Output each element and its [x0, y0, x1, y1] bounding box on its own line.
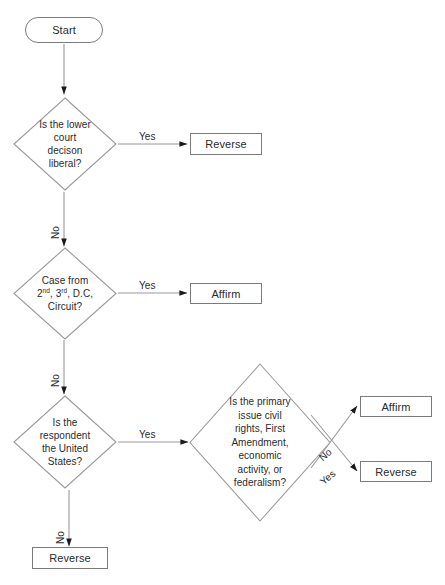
line-1: Is the primary — [229, 396, 290, 407]
line-1: Is the — [53, 417, 78, 428]
line-7: federalism? — [234, 477, 286, 488]
line-5: economic — [238, 450, 281, 461]
node-decision-lower-court-liberal[interactable]: Is the lower court decison liberal? — [13, 97, 117, 191]
line-4: Amendment, — [231, 437, 288, 448]
node-reverse-top[interactable]: Reverse — [190, 133, 262, 155]
line-3: the United — [42, 443, 88, 454]
node-reverse-bottom-label: Reverse — [49, 552, 91, 564]
line-1: Is the lower — [39, 119, 91, 130]
line-2-ordinals: 2nd, 3rd, D.C, — [37, 288, 93, 299]
node-start[interactable]: Start — [25, 17, 103, 43]
node-affirm-right[interactable]: Affirm — [360, 396, 432, 417]
line-6: activity, or — [238, 464, 283, 475]
node-decision-circuit[interactable]: Case from 2nd, 3rd, D.C, Circuit? — [13, 247, 117, 340]
edge-label-liberal-no: No — [50, 226, 61, 239]
node-decision-primary-issue-label: Is the primary issue civil rights, First… — [209, 395, 311, 490]
edge-label-respondent-yes: Yes — [139, 429, 156, 440]
edge-label-circuit-yes: Yes — [139, 280, 156, 291]
node-affirm-right-label: Affirm — [381, 401, 410, 413]
line-2: issue civil — [238, 410, 281, 421]
node-affirm-middle-label: Affirm — [211, 288, 240, 300]
node-decision-respondent-us[interactable]: Is the respondent the United States? — [13, 395, 117, 489]
node-decision-respondent-us-label: Is the respondent the United States? — [24, 416, 105, 468]
line-4: States? — [48, 456, 82, 467]
line-3: rights, First — [235, 423, 285, 434]
line-3: Circuit? — [48, 301, 82, 312]
node-decision-primary-issue[interactable]: Is the primary issue civil rights, First… — [189, 363, 331, 522]
flowchart-canvas: Start Is the lower court decison liberal… — [0, 0, 445, 585]
node-start-label: Start — [52, 24, 76, 36]
node-reverse-right[interactable]: Reverse — [360, 461, 432, 482]
node-decision-circuit-label: Case from 2nd, 3rd, D.C, Circuit? — [24, 274, 105, 313]
node-reverse-bottom[interactable]: Reverse — [32, 547, 108, 569]
node-decision-lower-court-liberal-label: Is the lower court decison liberal? — [24, 118, 105, 170]
node-affirm-middle[interactable]: Affirm — [190, 283, 262, 304]
edge-label-liberal-yes: Yes — [139, 131, 156, 142]
node-reverse-right-label: Reverse — [375, 466, 417, 478]
line-2: court — [54, 132, 76, 143]
edge-label-circuit-no: No — [50, 374, 61, 387]
ordinal-second-suffix: nd — [43, 287, 50, 294]
node-reverse-top-label: Reverse — [205, 138, 247, 150]
line-2: respondent — [40, 430, 91, 441]
line-4: liberal? — [49, 158, 82, 169]
ordinal-tail: , D.C, — [67, 288, 93, 299]
line-3: decison — [48, 145, 83, 156]
edge-label-respondent-no: No — [55, 531, 66, 544]
line-1: Case from — [42, 275, 89, 286]
